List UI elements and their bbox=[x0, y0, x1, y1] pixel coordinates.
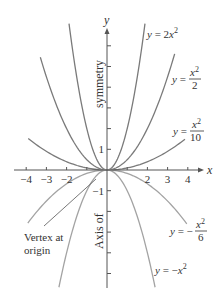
vertex-note-line2: origin bbox=[24, 244, 51, 256]
svg-text:y = 2x2: y = 2x2 bbox=[146, 26, 178, 40]
svg-text:6: 6 bbox=[198, 231, 204, 243]
x-axis-arrow-icon bbox=[198, 168, 204, 173]
x-axis-label: x bbox=[206, 163, 213, 177]
svg-text:y =: y = bbox=[171, 73, 186, 85]
y-axis-label: y bbox=[103, 13, 110, 27]
svg-text:2: 2 bbox=[192, 79, 198, 91]
curve-y-x2-over-2 bbox=[40, 54, 174, 170]
svg-text:y = −: y = − bbox=[169, 225, 193, 237]
label-y-x2-over-2: y = x2 2 bbox=[171, 65, 201, 91]
x-tick-label: −3 bbox=[41, 173, 53, 185]
svg-text:x2: x2 bbox=[195, 217, 205, 230]
label-y-neg-x2: y = −x2 bbox=[154, 262, 187, 276]
x-tick-label: 3 bbox=[165, 173, 171, 185]
y-tick-label: −1 bbox=[92, 185, 104, 197]
x-tick-label: −4 bbox=[20, 173, 32, 185]
x-tick-label: −2 bbox=[61, 173, 73, 185]
svg-text:x2: x2 bbox=[189, 65, 199, 78]
label-y-neg-x2-over-6: y = − x2 6 bbox=[169, 217, 207, 243]
parabola-diagram: x −4−3−2234 y 1−1 symmetry Axis of Verte… bbox=[0, 0, 220, 298]
vertex-leader-line bbox=[44, 179, 96, 226]
label-y-2x2: y = 2x2 bbox=[146, 26, 178, 40]
axis-of-symmetry-label-bottom: Axis of bbox=[92, 213, 106, 249]
svg-text:10: 10 bbox=[190, 131, 202, 143]
vertex-note-line1: Vertex at bbox=[24, 231, 63, 243]
svg-text:y =: y = bbox=[172, 125, 187, 137]
y-tick-label: 1 bbox=[99, 143, 105, 155]
svg-text:y = −x2: y = −x2 bbox=[154, 262, 187, 276]
label-y-x2-over-10: y = x2 10 bbox=[172, 117, 204, 143]
x-tick-label: 4 bbox=[185, 173, 191, 185]
y-axis-arrow-icon bbox=[105, 28, 110, 34]
svg-text:x2: x2 bbox=[191, 117, 201, 130]
axis-of-symmetry-label-top: symmetry bbox=[92, 60, 106, 108]
x-tick-label: 2 bbox=[145, 173, 151, 185]
